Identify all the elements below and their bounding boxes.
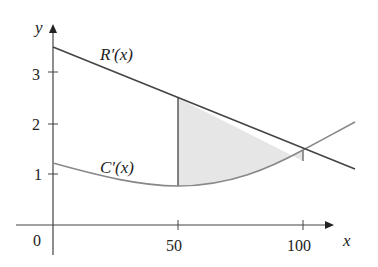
x-axis-label: x	[342, 231, 351, 250]
tick-label-1: 1	[34, 166, 42, 183]
tick-label-50: 50	[166, 237, 182, 254]
shaded-area	[178, 98, 303, 186]
y-axis-arrow-icon	[49, 24, 57, 33]
tick-label-100: 100	[287, 237, 311, 254]
r-prime-label: R′(x)	[99, 45, 133, 64]
tick-label-3: 3	[32, 66, 40, 83]
chart: y x 0 50 100 1 2 3 R′(x) C′(x)	[0, 0, 378, 267]
y-axis-label: y	[33, 18, 43, 37]
c-prime-label: C′(x)	[100, 158, 134, 177]
x-axis-arrow-icon	[325, 221, 334, 229]
origin-label: 0	[33, 232, 41, 249]
tick-label-2: 2	[32, 116, 40, 133]
